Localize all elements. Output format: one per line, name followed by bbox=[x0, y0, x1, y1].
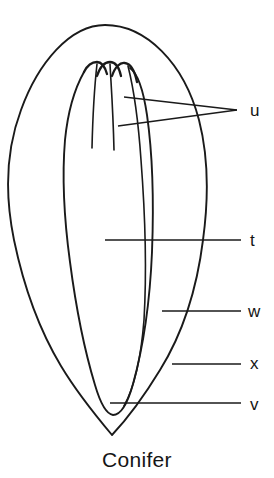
label-t: t bbox=[250, 232, 255, 249]
label-w: w bbox=[248, 303, 260, 320]
seed-drawing bbox=[0, 0, 274, 478]
label-u: u bbox=[250, 102, 259, 119]
figure-caption: Conifer bbox=[0, 448, 274, 472]
conifer-seed-figure: utwxv Conifer bbox=[0, 0, 274, 478]
label-v: v bbox=[250, 396, 259, 413]
leader-lines bbox=[105, 97, 241, 403]
seed-coat-outline bbox=[8, 25, 207, 435]
cotyledon-fold-right bbox=[124, 66, 145, 406]
cotyledon-fold-left bbox=[92, 64, 97, 148]
label-x: x bbox=[250, 355, 259, 372]
embryo-cavity-outline bbox=[64, 68, 153, 415]
leader-line-u bbox=[124, 97, 237, 110]
